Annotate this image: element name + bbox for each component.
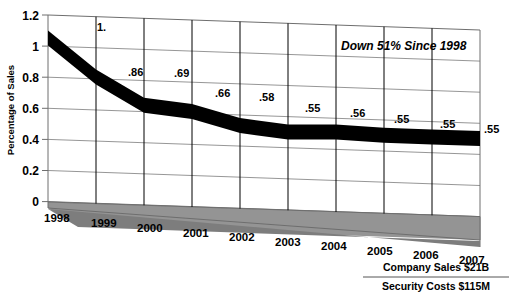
data-label-2007: .55 [484,123,499,135]
y-tick-label-1_0: 1 [32,40,39,54]
data-label-1999: .86 [128,66,143,78]
y-tick-label-0_2: 0.2 [22,164,39,178]
data-label-2006: .55 [440,118,455,130]
data-label-2001: .66 [215,87,230,99]
y-axis-title: Percentage of Sales [5,65,16,155]
ratio-numerator: Company Sales $21B [383,261,490,273]
callout-headline: Down 51% Since 1998 [341,39,467,53]
data-label-2002: .58 [259,91,274,103]
y-tick-marks [42,15,48,202]
x-tick-label-2003: 2003 [275,236,301,248]
x-tick-label-2002: 2002 [229,231,255,243]
y-tick-label-0_4: 0.4 [22,133,39,147]
chart-canvas: Percentage of Sales 1.2 1 0.8 0.6 0.4 0.… [0,0,513,303]
ratio-denominator: Security Costs $115M [382,280,490,292]
y-tick-label-0_8: 0.8 [22,71,39,85]
x-tick-label-2000: 2000 [137,222,163,234]
data-label-2005: .55 [394,113,409,125]
x-tick-label-2004: 2004 [321,240,347,252]
x-tick-label-1998: 1998 [44,212,70,224]
y-tick-label-0_6: 0.6 [22,102,39,116]
data-label-1998: 1. [97,21,106,33]
y-tick-label-1_2: 1.2 [22,9,39,23]
chart-figure: Percentage of Sales 1.2 1 0.8 0.6 0.4 0.… [0,0,513,303]
data-label-2004: .56 [350,107,365,119]
x-tick-label-2005: 2005 [367,245,393,257]
y-tick-label-0: 0 [32,195,39,209]
data-label-2003: .55 [305,102,320,114]
x-tick-label-2006: 2006 [413,249,439,261]
x-tick-label-1999: 1999 [91,217,117,229]
x-tick-label-2001: 2001 [183,227,209,239]
data-label-2000: .69 [174,67,189,79]
